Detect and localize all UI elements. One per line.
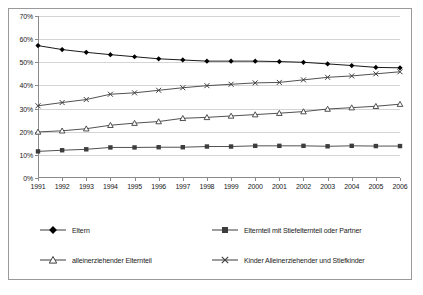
- filled-square-marker: [84, 147, 88, 151]
- x-axis-tick: [400, 178, 401, 181]
- filled-diamond-marker: [108, 52, 113, 57]
- filled-diamond-marker: [60, 47, 65, 52]
- filled-square-marker: [398, 144, 402, 148]
- series-layer: [38, 16, 400, 178]
- x-axis-tick-label: 2002: [296, 183, 311, 190]
- y-axis-tick-label: 30%: [20, 105, 33, 112]
- series-filled-square: [36, 144, 402, 154]
- filled-square-marker: [229, 144, 233, 148]
- x-axis-tick: [110, 178, 111, 181]
- chart-legend: Eltern Elternteil mit Stiefelternteil od…: [30, 214, 398, 272]
- x-axis-tick-label: 1998: [200, 183, 215, 190]
- legend-label: Kinder Alleinerziehender und Stiefkinder: [244, 257, 365, 264]
- x-axis-tick-label: 1992: [55, 183, 70, 190]
- filled-square-marker: [60, 148, 64, 152]
- filled-square-marker: [36, 149, 40, 153]
- cross-icon: [212, 255, 238, 265]
- x-axis-tick-label: 2006: [393, 183, 408, 190]
- filled-square-icon: [212, 225, 238, 235]
- y-axis-tick-label: 0%: [23, 175, 33, 182]
- x-axis-tick: [352, 178, 353, 181]
- plot-layers: 0%10%20%30%40%50%60%70%19911992199319941…: [38, 16, 400, 178]
- x-axis-tick: [279, 178, 280, 181]
- filled-square-marker: [156, 145, 160, 149]
- x-axis-tick-label: 1996: [151, 183, 166, 190]
- filled-square-marker: [205, 144, 209, 148]
- x-axis-tick: [183, 178, 184, 181]
- x-axis-tick-label: 2001: [272, 183, 287, 190]
- x-axis-tick: [159, 178, 160, 181]
- filled-square-marker: [301, 144, 305, 148]
- legend-label: Elternteil mit Stiefelternteil oder Part…: [244, 227, 361, 234]
- x-axis-tick: [255, 178, 256, 181]
- filled-square-marker: [132, 145, 136, 149]
- x-axis-tick: [38, 178, 39, 181]
- x-axis-tick-label: 2003: [320, 183, 335, 190]
- y-axis-tick-label: 10%: [20, 151, 33, 158]
- filled-square-marker: [325, 144, 329, 148]
- filled-diamond-marker: [325, 61, 330, 66]
- x-axis-tick-label: 1999: [224, 183, 239, 190]
- x-axis-tick: [135, 178, 136, 181]
- filled-square-marker: [277, 144, 281, 148]
- x-axis-tick: [231, 178, 232, 181]
- filled-diamond-marker: [301, 60, 306, 65]
- y-axis-tick-label: 70%: [20, 13, 33, 20]
- filled-diamond-marker: [228, 59, 233, 64]
- x-axis-tick-label: 2004: [344, 183, 359, 190]
- filled-square-marker: [108, 145, 112, 149]
- filled-diamond-icon: [40, 225, 66, 235]
- x-axis-tick-label: 1993: [79, 183, 94, 190]
- filled-square-marker: [350, 144, 354, 148]
- x-axis-tick: [328, 178, 329, 181]
- legend-label: Eltern: [72, 227, 90, 234]
- y-axis-tick-label: 20%: [20, 128, 33, 135]
- x-axis-tick: [86, 178, 87, 181]
- legend-label: alleinerziehender Elternteil: [72, 257, 152, 264]
- y-axis-tick-label: 50%: [20, 59, 33, 66]
- legend-item-elternteil-mit-stiefelternteil: Elternteil mit Stiefelternteil oder Part…: [212, 224, 361, 236]
- series-line: [38, 46, 400, 68]
- x-axis-tick: [207, 178, 208, 181]
- x-axis-tick-label: 1991: [31, 183, 46, 190]
- filled-diamond-marker: [253, 59, 258, 64]
- x-axis-tick-label: 2000: [248, 183, 263, 190]
- chart-screenshot: 0%10%20%30%40%50%60%70%19911992199319941…: [0, 0, 423, 295]
- legend-item-kinder-alleinerziehender: Kinder Alleinerziehender und Stiefkinder: [212, 254, 365, 266]
- open-triangle-icon: [40, 255, 66, 265]
- filled-square-marker: [253, 144, 257, 148]
- x-axis-tick-label: 2005: [368, 183, 383, 190]
- x-axis-tick: [303, 178, 304, 181]
- series-open-triangle: [35, 101, 403, 134]
- filled-diamond-marker: [373, 65, 378, 70]
- series-cross: [36, 69, 403, 108]
- filled-diamond-marker: [84, 50, 89, 55]
- filled-diamond-marker: [349, 63, 354, 68]
- filled-diamond-marker: [277, 59, 282, 64]
- filled-diamond-marker: [180, 57, 185, 62]
- series-filled-diamond: [35, 43, 402, 70]
- legend-item-alleinerziehender-elternteil: alleinerziehender Elternteil: [40, 254, 152, 266]
- series-line: [38, 146, 400, 152]
- series-line: [38, 104, 400, 132]
- x-axis-tick-label: 1997: [175, 183, 190, 190]
- series-line: [38, 72, 400, 106]
- filled-diamond-marker: [156, 56, 161, 61]
- filled-square-marker: [374, 144, 378, 148]
- plot-area: 0%10%20%30%40%50%60%70%19911992199319941…: [38, 16, 400, 178]
- x-axis-tick: [62, 178, 63, 181]
- x-axis-tick: [376, 178, 377, 181]
- y-axis-tick-label: 60%: [20, 36, 33, 43]
- x-axis-tick-label: 1994: [103, 183, 118, 190]
- y-axis-tick-label: 40%: [20, 82, 33, 89]
- x-axis-tick-label: 1995: [127, 183, 142, 190]
- legend-item-eltern: Eltern: [40, 224, 90, 236]
- filled-diamond-marker: [132, 54, 137, 59]
- filled-square-marker: [181, 145, 185, 149]
- filled-diamond-marker: [204, 59, 209, 64]
